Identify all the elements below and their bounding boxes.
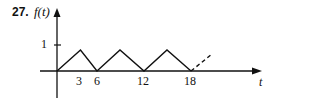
y-axis-arrow-icon (54, 8, 61, 17)
x-tick-label-6: 6 (94, 74, 100, 89)
continuation-dashed (191, 54, 212, 71)
triangle-wave (57, 50, 191, 71)
x-tick-label-3: 3 (76, 74, 82, 89)
x-tick-label-12: 12 (137, 74, 149, 89)
x-axis-arrow-icon (252, 68, 262, 75)
y-tick-label-1: 1 (41, 37, 47, 52)
x-axis-label: t (259, 75, 262, 90)
x-tick-label-18: 18 (184, 74, 196, 89)
